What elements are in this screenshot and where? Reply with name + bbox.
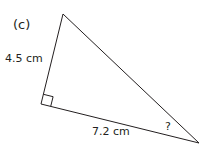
base-side-length: 7.2 cm: [92, 125, 130, 138]
part-label: (c): [13, 17, 30, 32]
triangle-diagram: (c) 4.5 cm 7.2 cm ?: [0, 0, 206, 155]
vertical-side-length: 4.5 cm: [5, 52, 43, 65]
triangle-outline: [41, 14, 199, 143]
unknown-angle-label: ?: [165, 120, 171, 133]
